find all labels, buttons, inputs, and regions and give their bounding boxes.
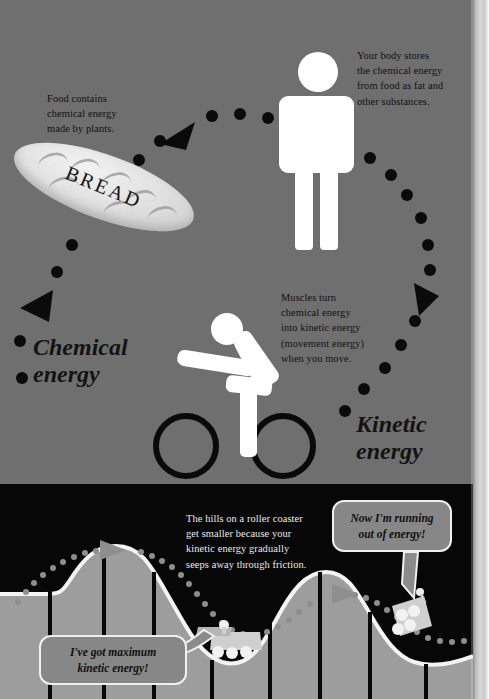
caption-muscles: Muscles turn chemical energy into kineti… [281,290,399,366]
person-torso-icon [279,96,354,173]
bicycle-rear-wheel-icon [153,413,219,479]
person-head-icon [298,52,338,92]
label-kinetic-energy: Kinetic energy [356,411,427,465]
caption-hills: The hills on a roller coaster get smalle… [186,511,326,572]
person-right-leg-icon [320,170,338,250]
arrow-left-bottom [20,290,53,322]
page-edge [473,0,489,699]
right-bubble-tail [402,552,418,598]
caption-food: Food contains chemical energy made by pl… [47,91,172,137]
speech-bubble-max-kinetic: I've got maximum kinetic energy! [39,635,187,685]
person-left-leg-icon [295,170,313,250]
bicycle-front-wheel-icon [250,413,316,479]
speech-bubble-running-out: Now I'm running out of energy! [332,500,452,552]
arrow-right [414,283,439,316]
cyclist-shin-icon [240,387,257,457]
infographic-page: BREAD Food contains chemical energy made… [0,0,489,699]
caption-body: Your body stores the chemical energy fro… [357,48,485,109]
label-chemical-energy: Chemical energy [33,334,128,388]
